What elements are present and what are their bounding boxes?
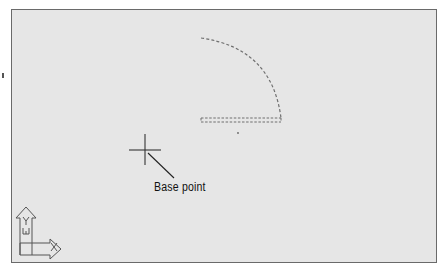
stray-point <box>237 132 239 134</box>
ghost-rectangle <box>201 118 281 122</box>
ucs-icon <box>16 207 61 259</box>
callout-leader <box>148 153 174 178</box>
ghost-arc <box>201 38 281 118</box>
drawing-canvas <box>0 0 444 271</box>
base-point-label: Base point <box>154 180 206 194</box>
